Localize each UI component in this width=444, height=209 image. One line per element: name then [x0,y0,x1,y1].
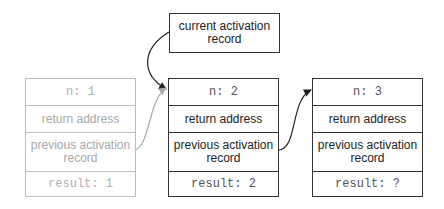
current-activation-record-box: current activation record [169,13,280,53]
field-result: result: ? [313,172,422,196]
current-pointer-arrow [148,32,169,89]
activation-record-3: n: 3 return address previous activation … [312,78,423,197]
activation-record-1: n: 1 return address previous activation … [25,78,136,197]
field-return-address: return address [313,106,422,133]
field-n: n: 3 [313,79,422,106]
field-previous-record: previous activation record [169,133,278,172]
current-activation-record-label: current activation record [170,20,279,46]
activation-record-2: n: 2 return address previous activation … [168,78,279,197]
field-return-address: return address [169,106,278,133]
field-return-address: return address [26,106,135,133]
field-n: n: 2 [169,79,278,106]
previous-link-arrow-2 [279,90,311,150]
field-previous-record: previous activation record [26,133,135,172]
field-previous-record: previous activation record [313,133,422,172]
field-n: n: 1 [26,79,135,106]
previous-link-arrow-1 [134,88,166,150]
field-result: result: 1 [26,172,135,196]
field-result: result: 2 [169,172,278,196]
